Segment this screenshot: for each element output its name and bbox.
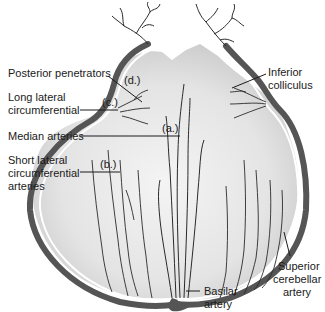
label-superior-cerebellar-1: Superior — [278, 260, 320, 272]
marker-b: (b.) — [100, 158, 117, 170]
label-inferior-colliculus-2: colliculus — [268, 79, 313, 91]
brainstem-artery-diagram: (d.) (c.) (a.) (b.) Posterior penetrator… — [0, 0, 325, 312]
marker-d: (d.) — [124, 74, 141, 86]
label-inferior-colliculus-1: Inferior — [268, 66, 303, 78]
label-long-lateral-1: Long lateral — [8, 91, 66, 103]
label-median-arteries: Median arteries — [8, 130, 84, 142]
label-superior-cerebellar-3: artery — [283, 286, 312, 298]
marker-a: (a.) — [162, 122, 179, 134]
top-branch-vessels — [112, 2, 244, 46]
marker-c: (c.) — [102, 96, 118, 108]
label-long-lateral-2: circumferential — [8, 104, 80, 116]
label-short-lateral-1: Short lateral — [8, 154, 67, 166]
label-short-lateral-3: arteries — [8, 180, 45, 192]
label-posterior-penetrators: Posterior penetrators — [8, 67, 111, 79]
label-superior-cerebellar-2: cerebellar — [273, 273, 322, 285]
label-short-lateral-2: circumferential — [8, 167, 80, 179]
label-basilar-1: Basilar — [204, 285, 238, 297]
label-basilar-2: artery — [204, 298, 233, 310]
